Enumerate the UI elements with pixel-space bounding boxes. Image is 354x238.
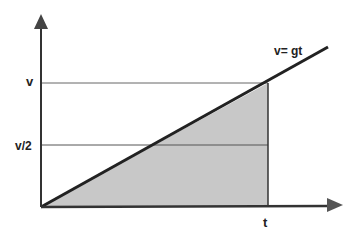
graph-canvas bbox=[0, 0, 354, 238]
velocity-time-diagram: v= gt v v/2 t bbox=[0, 0, 354, 238]
x-label-t: t bbox=[263, 216, 267, 229]
y-axis-arrow-icon bbox=[34, 14, 48, 29]
x-axis-arrow-icon bbox=[327, 198, 343, 212]
line-label: v= gt bbox=[274, 45, 302, 57]
y-label-half-v: v/2 bbox=[15, 140, 32, 152]
y-label-v: v bbox=[26, 75, 33, 88]
x-axis bbox=[41, 206, 328, 207]
